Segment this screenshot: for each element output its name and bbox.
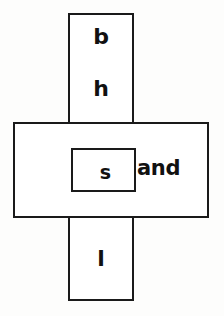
inner-small-rectangle: s [71,148,136,192]
label-and: and [137,158,180,179]
label-l: l [68,248,134,270]
diagram-canvas: s b h and l [0,0,224,316]
label-b: b [68,26,134,48]
label-h: h [68,78,134,100]
label-s: s [73,163,138,182]
